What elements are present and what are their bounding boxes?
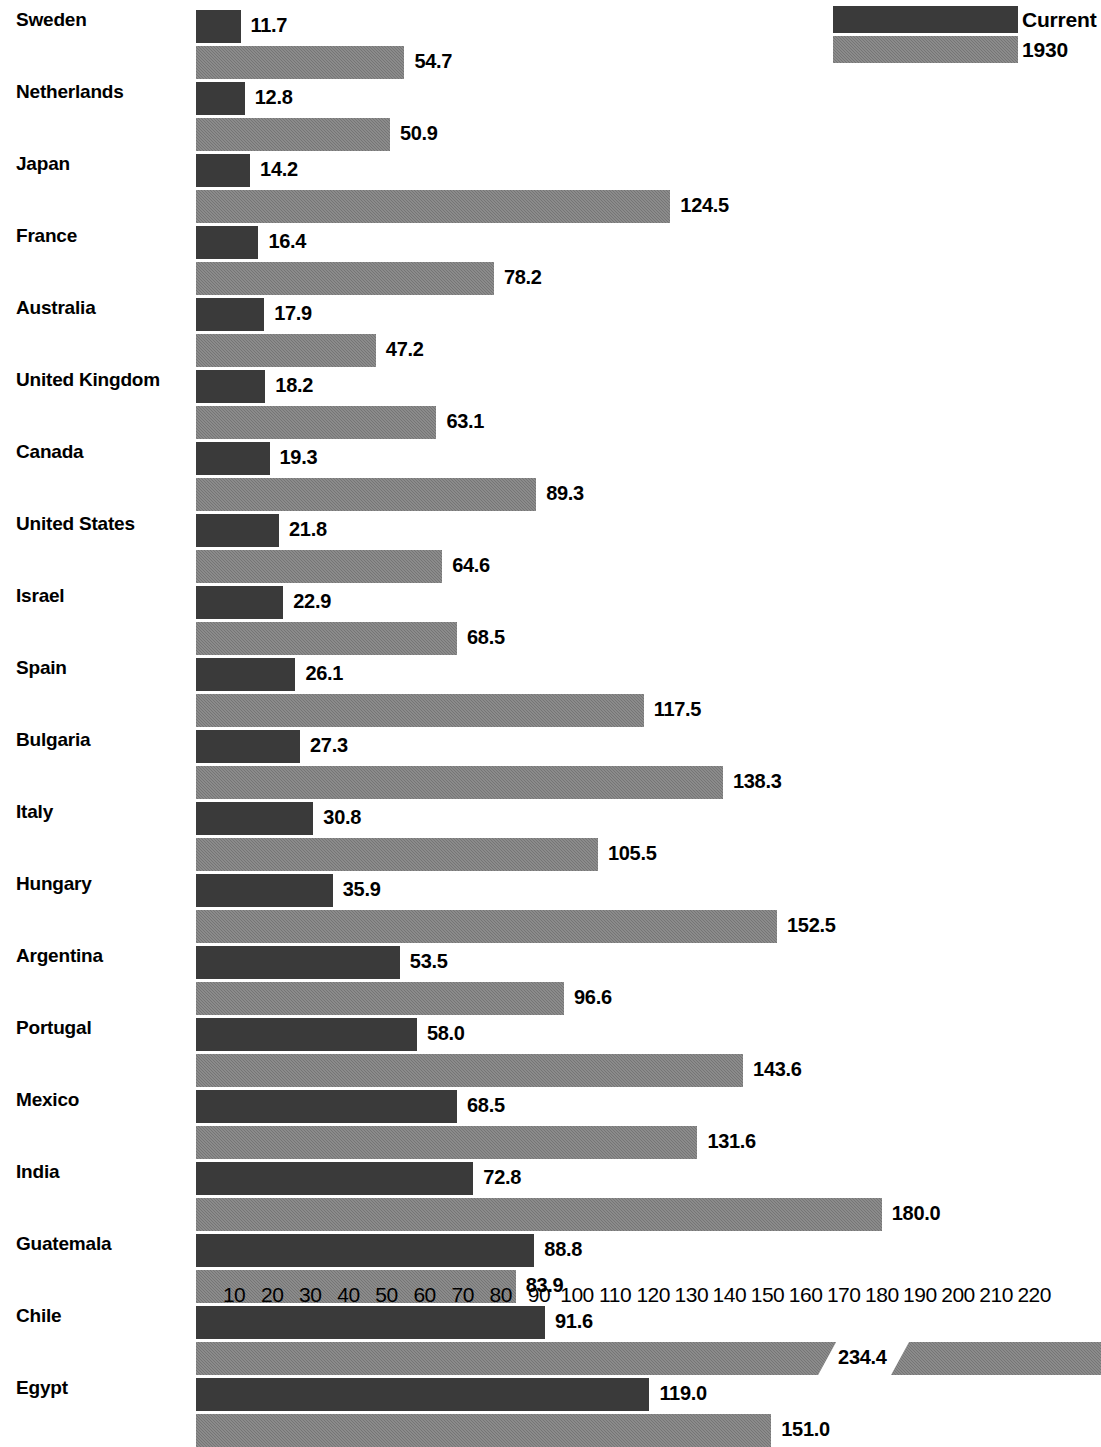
bar-value-label: 26.1 [305, 662, 343, 685]
category-label: Sweden [16, 9, 87, 31]
bar-value-label: 234.4 [838, 1346, 887, 1369]
bar [196, 10, 241, 43]
x-axis-tick-label: 200 [941, 1283, 975, 1307]
category-label: Spain [16, 657, 67, 679]
bar-value-label: 22.9 [293, 590, 331, 613]
bar-value-label: 78.2 [504, 266, 542, 289]
bar-value-label: 89.3 [546, 482, 584, 505]
x-axis-tick-label: 160 [789, 1283, 823, 1307]
bar-group: Sweden11.754.7 [0, 3, 1101, 75]
bar-value-label: 64.6 [452, 554, 490, 577]
bar-group: France16.478.2 [0, 219, 1101, 291]
category-label: Italy [16, 801, 53, 823]
category-label: Argentina [16, 945, 103, 967]
bar [196, 730, 300, 763]
bar-value-label: 105.5 [608, 842, 657, 865]
category-label: United Kingdom [16, 369, 160, 391]
bar-value-label: 11.7 [251, 14, 288, 37]
bar-value-label: 54.7 [414, 50, 452, 73]
bar-value-label: 88.8 [544, 1238, 582, 1261]
bar [196, 370, 265, 403]
bar-group: United States21.864.6 [0, 507, 1101, 579]
category-label: France [16, 225, 77, 247]
x-axis-tick-label: 70 [452, 1283, 474, 1307]
x-axis-tick-label: 150 [751, 1283, 785, 1307]
x-axis-tick-label: 10 [223, 1283, 245, 1307]
bar-group: Italy30.8105.5 [0, 795, 1101, 867]
x-axis-tick-label: 140 [713, 1283, 747, 1307]
bar-value-label: 50.9 [400, 122, 438, 145]
bar-value-label: 63.1 [446, 410, 484, 433]
bar-value-label: 151.0 [781, 1418, 830, 1441]
x-axis-tick-label: 180 [865, 1283, 899, 1307]
bar-value-label: 152.5 [787, 914, 836, 937]
bar-group: Japan14.2124.5 [0, 147, 1101, 219]
bar-value-label: 131.6 [707, 1130, 756, 1153]
bar-value-label: 17.9 [274, 302, 312, 325]
category-label: India [16, 1161, 59, 1183]
x-axis-tick-label: 120 [636, 1283, 670, 1307]
x-axis-tick-label: 210 [979, 1283, 1013, 1307]
bar-value-label: 53.5 [410, 950, 448, 973]
bar-group: Netherlands12.850.9 [0, 75, 1101, 147]
x-axis-tick-label: 40 [337, 1283, 359, 1307]
bar-value-label: 16.4 [268, 230, 306, 253]
x-axis-tick-label: 90 [528, 1283, 550, 1307]
bar-value-label: 138.3 [733, 770, 782, 793]
bar-value-label: 27.3 [310, 734, 348, 757]
bar [196, 1090, 457, 1123]
bar [196, 298, 264, 331]
bar-value-label: 14.2 [260, 158, 298, 181]
x-axis-tick-label: 100 [560, 1283, 594, 1307]
x-axis-tick-label: 80 [490, 1283, 512, 1307]
x-axis-tick-label: 170 [827, 1283, 861, 1307]
bar [196, 514, 279, 547]
bar [196, 1162, 473, 1195]
bar [196, 658, 295, 691]
x-axis-tick-label: 190 [903, 1283, 937, 1307]
bar [196, 442, 270, 475]
bar-value-label: 35.9 [343, 878, 381, 901]
bar [196, 946, 400, 979]
bar [196, 154, 250, 187]
bar-group: Hungary35.9152.5 [0, 867, 1101, 939]
bar-group: Egypt119.0151.0 [0, 1371, 1101, 1443]
category-label: Egypt [16, 1377, 68, 1399]
bar-value-label: 21.8 [289, 518, 327, 541]
bar [196, 1414, 771, 1447]
x-axis-tick-label: 30 [299, 1283, 321, 1307]
bar-value-label: 47.2 [386, 338, 424, 361]
bar-value-label: 19.3 [280, 446, 318, 469]
bar [196, 226, 258, 259]
category-label: Israel [16, 585, 64, 607]
category-label: United States [16, 513, 135, 535]
x-axis: 1020304050607080901001101201301401501601… [0, 1283, 1101, 1317]
bar-group: India72.8180.0 [0, 1155, 1101, 1227]
bar-group: Canada19.389.3 [0, 435, 1101, 507]
bar-value-label: 143.6 [753, 1058, 802, 1081]
bar [196, 586, 283, 619]
x-axis-tick-label: 20 [261, 1283, 283, 1307]
x-axis-tick-label: 110 [599, 1283, 631, 1307]
x-axis-tick-label: 220 [1017, 1283, 1051, 1307]
bar-value-label: 68.5 [467, 1094, 505, 1117]
bar-value-label: 119.0 [659, 1382, 706, 1405]
bar-value-label: 30.8 [323, 806, 361, 829]
bar-group: Spain26.1117.5 [0, 651, 1101, 723]
bar-group: United Kingdom18.263.1 [0, 363, 1101, 435]
bar-group: Israel22.968.5 [0, 579, 1101, 651]
x-axis-tick-label: 60 [413, 1283, 435, 1307]
x-axis-tick-label: 130 [675, 1283, 709, 1307]
bar-group: Mexico68.5131.6 [0, 1083, 1101, 1155]
bar [196, 874, 333, 907]
bar-group: Argentina53.596.6 [0, 939, 1101, 1011]
bar-value-label: 68.5 [467, 626, 505, 649]
bar-value-label: 96.6 [574, 986, 612, 1009]
bar-group: Bulgaria27.3138.3 [0, 723, 1101, 795]
bar [196, 1234, 534, 1267]
bar-value-label: 58.0 [427, 1022, 465, 1045]
category-label: Bulgaria [16, 729, 90, 751]
x-axis-tick-label: 50 [375, 1283, 397, 1307]
bar [196, 82, 245, 115]
